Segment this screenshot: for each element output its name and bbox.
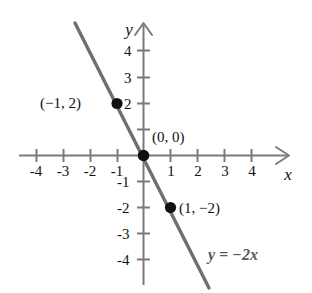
y-tick-label-minus2: -2 (117, 201, 130, 216)
x-tick-label-3: 3 (221, 164, 229, 179)
y-tick-label-minus3: -3 (117, 227, 130, 242)
data-point-minus1-2 (111, 98, 122, 109)
y-tick-label-4: 4 (124, 44, 132, 59)
x-tick-label-minus2: -2 (84, 164, 97, 179)
coordinate-plane (0, 0, 312, 293)
point-label-origin: (0, 0) (152, 130, 185, 145)
y-tick-label-minus1: -1 (117, 175, 130, 190)
x-tick-label-4: 4 (248, 164, 256, 179)
x-tick-label-minus4: -4 (30, 164, 43, 179)
x-tick-label-minus3: -3 (57, 164, 70, 179)
graph-figure: -4 -3 -2 -1 1 2 3 4 4 3 2 -1 -2 -3 -4 y … (0, 0, 312, 293)
point-label-1-minus2: (1, −2) (179, 201, 220, 216)
x-axis-label: x (284, 166, 292, 183)
y-axis-label: y (125, 21, 133, 38)
point-label-minus1-2: (−1, 2) (40, 96, 81, 111)
y-tick-label-minus4: -4 (117, 253, 130, 268)
y-tick-label-3: 3 (124, 71, 132, 86)
equation-label: y = −2x (208, 247, 258, 263)
y-tick-label-2: 2 (124, 97, 132, 112)
data-point-1-minus2 (165, 202, 176, 213)
x-tick-label-2: 2 (194, 164, 202, 179)
x-tick-label-1: 1 (167, 164, 175, 179)
data-point-origin (138, 150, 150, 162)
